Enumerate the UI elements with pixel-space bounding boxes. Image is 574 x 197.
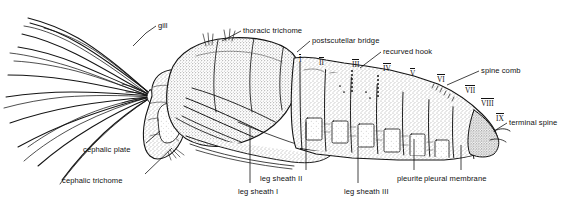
leader-recurved-hook xyxy=(360,52,381,68)
label-cephalic-plate: cephalic plate xyxy=(83,146,131,154)
segment-numeral-V: V xyxy=(410,68,415,77)
label-leg-sheath-3: leg sheath III xyxy=(344,188,389,196)
label-thoracic-trichome: thoracic trichome xyxy=(243,27,302,35)
leader-gill xyxy=(133,26,156,46)
label-postscutellar: postscutellar bridge xyxy=(312,37,379,45)
label-spine-comb: spine comb xyxy=(481,67,521,75)
gill-filaments xyxy=(4,18,151,184)
label-terminal-spine: terminal spine xyxy=(509,119,557,127)
segment-numeral-IV: IV xyxy=(383,63,391,72)
abdomen xyxy=(291,57,510,160)
segment-numeral-VI: VI xyxy=(437,74,445,83)
segment-numeral-II: II xyxy=(319,57,324,66)
leader-postscutellar xyxy=(297,41,310,52)
label-cephalic-trichome: cephalic trichome xyxy=(62,177,122,185)
label-leg-sheath-2: leg sheath II xyxy=(260,175,302,183)
label-pleurite: pleurite xyxy=(397,175,423,183)
leader-terminal-spine xyxy=(494,123,507,131)
label-pleural-membrane: pleural membrane xyxy=(424,175,486,183)
segment-numeral-VII: VII xyxy=(465,85,475,94)
figure-pupa-lateral: gillthoracic trichomepostscutellar bridg… xyxy=(0,0,574,197)
label-gill: gill xyxy=(158,22,168,30)
thorax xyxy=(167,29,299,158)
segment-numeral-IX: IX xyxy=(496,113,504,122)
label-leg-sheath-1: leg sheath I xyxy=(238,188,278,196)
label-recurved-hook: recurved hook xyxy=(383,48,432,56)
segment-numeral-III: III xyxy=(352,59,359,68)
segment-numeral-I: I xyxy=(299,54,301,63)
segment-numeral-VIII: VIII xyxy=(481,98,494,107)
leader-spine-comb xyxy=(447,71,479,85)
